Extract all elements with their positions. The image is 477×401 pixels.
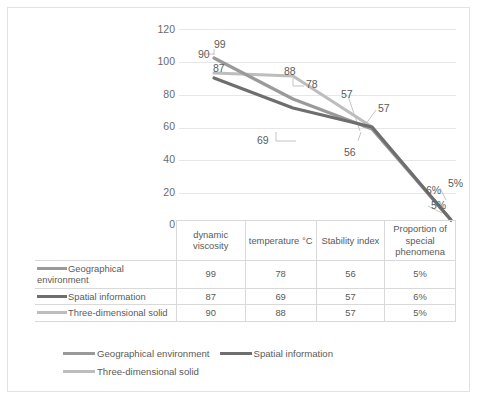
cell-geo-proportion: 5% bbox=[385, 260, 456, 288]
cell-spa-dynamic-viscosity: 87 bbox=[176, 288, 245, 305]
legend-key-icon bbox=[63, 370, 95, 373]
cell-geo-dynamic-viscosity: 99 bbox=[176, 260, 245, 288]
table-corner-cell bbox=[35, 221, 176, 261]
row-header-spatial-information: Spatial information bbox=[35, 288, 176, 305]
legend-row-2: Three-dimensional solid bbox=[63, 366, 453, 377]
data-label-spa-p4: 6% bbox=[426, 185, 441, 196]
column-header-stability-index: Stability index bbox=[316, 221, 385, 261]
cell-spa-stability-index: 57 bbox=[316, 288, 385, 305]
legend-key-icon bbox=[63, 352, 95, 355]
data-label-geo-p4: 5% bbox=[431, 200, 446, 211]
data-label-geo-p2: 78 bbox=[306, 79, 318, 90]
data-label-tds-p3: 57 bbox=[378, 103, 390, 114]
series-line-spatial-information bbox=[214, 78, 451, 220]
plot-area: 120 100 80 60 40 20 0 bbox=[8, 8, 471, 224]
cell-tds-proportion: 5% bbox=[385, 305, 456, 322]
table-header-row: dynamic viscosity temperature °C Stabili… bbox=[35, 221, 456, 261]
data-label-spa-p2: 69 bbox=[257, 135, 269, 146]
chart-legend: Geographical environment Spatial informa… bbox=[63, 348, 453, 384]
data-table: dynamic viscosity temperature °C Stabili… bbox=[35, 220, 456, 322]
table-row: Geographical environment 99 78 56 5% bbox=[35, 260, 456, 288]
data-label-spa-p3: 57 bbox=[341, 89, 353, 100]
table-row: Spatial information 87 69 57 6% bbox=[35, 288, 456, 305]
legend-label: Geographical environment bbox=[97, 348, 210, 359]
column-header-proportion-special-phenomena: Proportion of special phenomena bbox=[385, 221, 456, 261]
legend-item-spatial-information[interactable]: Spatial information bbox=[220, 348, 333, 359]
legend-label: Three-dimensional solid bbox=[97, 366, 199, 377]
series-line-geographical-environment bbox=[214, 58, 451, 220]
series-key-icon bbox=[37, 267, 67, 270]
legend-key-icon bbox=[220, 352, 252, 355]
chart-container: 120 100 80 60 40 20 0 bbox=[7, 7, 470, 392]
data-label-spa-p1: 87 bbox=[213, 63, 225, 74]
legend-item-geographical-environment[interactable]: Geographical environment bbox=[63, 348, 210, 359]
table-row: Three-dimensional solid 90 88 57 5% bbox=[35, 305, 456, 322]
legend-row-1: Geographical environment Spatial informa… bbox=[63, 348, 453, 359]
series-key-icon bbox=[37, 311, 67, 314]
legend-item-three-dimensional-solid[interactable]: Three-dimensional solid bbox=[63, 366, 199, 377]
cell-tds-dynamic-viscosity: 90 bbox=[176, 305, 245, 322]
data-label-tds-p2: 88 bbox=[284, 66, 296, 77]
data-label-tds-p4: 5% bbox=[448, 178, 463, 189]
cell-tds-stability-index: 57 bbox=[316, 305, 385, 322]
cell-spa-proportion: 6% bbox=[385, 288, 456, 305]
column-header-temperature: temperature °C bbox=[245, 221, 316, 261]
data-label-tds-p1: 90 bbox=[198, 49, 210, 60]
cell-spa-temperature: 69 bbox=[245, 288, 316, 305]
data-label-geo-p1: 99 bbox=[214, 39, 226, 50]
row-header-label: Three-dimensional solid bbox=[68, 307, 168, 318]
series-key-icon bbox=[37, 295, 67, 298]
cell-geo-temperature: 78 bbox=[245, 260, 316, 288]
legend-label: Spatial information bbox=[254, 348, 333, 359]
cell-geo-stability-index: 56 bbox=[316, 260, 385, 288]
line-chart-svg bbox=[8, 8, 471, 224]
gridlines bbox=[179, 30, 456, 221]
data-label-geo-p3: 56 bbox=[344, 147, 356, 158]
cell-tds-temperature: 88 bbox=[245, 305, 316, 322]
column-header-dynamic-viscosity: dynamic viscosity bbox=[176, 221, 245, 261]
row-header-geographical-environment: Geographical environment bbox=[35, 260, 176, 288]
row-header-three-dimensional-solid: Three-dimensional solid bbox=[35, 305, 176, 322]
row-header-label: Spatial information bbox=[68, 291, 146, 302]
